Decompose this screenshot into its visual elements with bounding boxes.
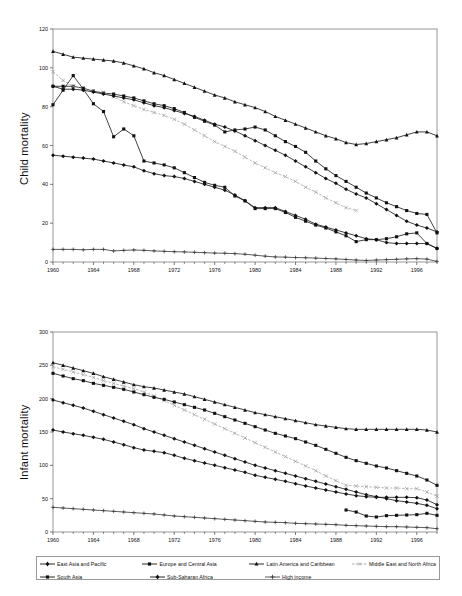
legend-item-east-asia-and-pacific: East Asia and Pacific <box>40 559 142 569</box>
svg-text:1968: 1968 <box>128 537 140 543</box>
legend-marker-diamond-icon <box>150 573 165 581</box>
legend-row-2: South Asia Sub-Saharan Africa High incom… <box>40 572 436 582</box>
series-high-income <box>51 247 439 263</box>
svg-text:1984: 1984 <box>290 267 302 273</box>
legend-label: South Asia <box>57 574 82 580</box>
svg-text:1988: 1988 <box>330 537 342 543</box>
series-middle-east-and-north-africa <box>51 365 439 498</box>
svg-text:1964: 1964 <box>87 537 99 543</box>
svg-text:300: 300 <box>39 329 48 335</box>
svg-text:1968: 1968 <box>128 267 140 273</box>
svg-text:1992: 1992 <box>370 267 382 273</box>
svg-text:100: 100 <box>39 462 48 468</box>
series-europe-and-central-asia <box>345 508 439 518</box>
legend-marker-plus-icon <box>265 573 280 581</box>
child-mortality-plot: 0204060801001201960196419681972197619801… <box>0 0 462 300</box>
svg-text:1972: 1972 <box>168 537 180 543</box>
infant-mortality-chart: Infant mortality 05010015020025030019601… <box>0 300 462 545</box>
svg-text:0: 0 <box>45 259 48 265</box>
child-mortality-y-axis-title: Child mortality <box>18 112 30 185</box>
svg-text:40: 40 <box>42 181 48 187</box>
svg-text:1992: 1992 <box>370 537 382 543</box>
svg-text:1980: 1980 <box>249 267 261 273</box>
legend-marker-triangle-icon <box>249 560 264 568</box>
legend-marker-square-icon <box>142 560 157 568</box>
svg-text:80: 80 <box>42 104 48 110</box>
legend-label: Europe and Central Asia <box>159 561 216 567</box>
svg-text:50: 50 <box>42 496 48 502</box>
svg-text:100: 100 <box>39 65 48 71</box>
series-high-income <box>51 505 439 530</box>
svg-text:1984: 1984 <box>290 537 302 543</box>
chart-legend: East Asia and Pacific Europe and Central… <box>36 556 440 580</box>
svg-text:1972: 1972 <box>168 267 180 273</box>
legend-item-latin-america-and-caribbean: Latin America and Caribbean <box>249 559 351 569</box>
infant-mortality-y-axis-title: Infant mortality <box>18 405 30 480</box>
legend-item-sub-saharan-africa: Sub-Saharan Africa <box>150 572 265 582</box>
child-mortality-chart: Child mortality 020406080100120196019641… <box>0 0 462 300</box>
svg-text:1988: 1988 <box>330 267 342 273</box>
legend-label: High income <box>282 574 311 580</box>
svg-text:1960: 1960 <box>47 267 59 273</box>
legend-label: Sub-Saharan Africa <box>167 574 213 580</box>
legend-row-1: East Asia and Pacific Europe and Central… <box>40 559 436 569</box>
svg-text:0: 0 <box>45 529 48 535</box>
series-sub-saharan-africa <box>51 84 439 234</box>
legend-label: Middle East and North Africa <box>369 561 436 567</box>
svg-text:1980: 1980 <box>249 537 261 543</box>
legend-item-south-asia: South Asia <box>40 572 150 582</box>
legend-marker-square-icon <box>40 573 55 581</box>
svg-text:120: 120 <box>39 26 48 32</box>
svg-text:1976: 1976 <box>209 267 221 273</box>
svg-text:1964: 1964 <box>87 267 99 273</box>
legend-marker-diamond-icon <box>40 560 55 568</box>
legend-marker-cross-icon <box>352 560 367 568</box>
svg-text:20: 20 <box>42 220 48 226</box>
legend-item-middle-east-and-north-africa: Middle East and North Africa <box>352 559 436 569</box>
legend-item-high-income: High income <box>265 572 375 582</box>
infant-mortality-plot: 0501001502002503001960196419681972197619… <box>0 300 462 545</box>
legend-item-europe-and-central-asia: Europe and Central Asia <box>142 559 249 569</box>
svg-text:1976: 1976 <box>209 537 221 543</box>
svg-text:150: 150 <box>39 429 48 435</box>
legend-label: Latin America and Caribbean <box>266 561 334 567</box>
series-latin-america-and-caribbean <box>51 49 439 146</box>
legend-label: East Asia and Pacific <box>57 561 107 567</box>
svg-text:1996: 1996 <box>411 537 423 543</box>
svg-text:250: 250 <box>39 362 48 368</box>
series-sub-saharan-africa <box>51 398 439 511</box>
series-europe-and-central-asia <box>51 85 438 235</box>
svg-text:1996: 1996 <box>411 267 423 273</box>
series-east-asia-and-pacific <box>51 428 439 507</box>
svg-text:60: 60 <box>42 143 48 149</box>
svg-text:200: 200 <box>39 396 48 402</box>
svg-text:1960: 1960 <box>47 537 59 543</box>
